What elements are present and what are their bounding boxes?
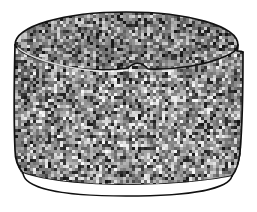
figure-container: Line drawing of an open cylindrical vess… (0, 0, 257, 212)
cylinder-container-illustration (0, 0, 257, 212)
